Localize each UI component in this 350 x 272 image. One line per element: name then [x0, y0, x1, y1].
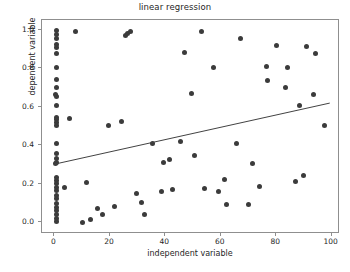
x-tick-label: 60 [215, 237, 225, 246]
x-tick-mark [53, 233, 54, 236]
y-tick-mark [38, 183, 41, 184]
x-tick-label: 20 [104, 237, 114, 246]
y-tick-mark [38, 29, 41, 30]
x-tick-mark [331, 233, 332, 236]
y-tick-label: 0.2 [22, 178, 34, 187]
y-tick-label: 0.0 [22, 217, 34, 226]
x-axis-label: independent variable [41, 249, 339, 258]
x-tick-label: 80 [270, 237, 280, 246]
x-tick-mark [220, 233, 221, 236]
x-tick-mark [164, 233, 165, 236]
x-tick-label: 40 [160, 237, 170, 246]
linear-regression-figure: linear regression 0204060801000.00.20.40… [0, 0, 350, 272]
y-tick-mark [38, 221, 41, 222]
y-axis-label: dependent variable [28, 0, 37, 132]
regression-line [54, 103, 329, 164]
y-tick-mark [38, 144, 41, 145]
plot-area [41, 19, 339, 233]
y-tick-mark [38, 67, 41, 68]
x-tick-label: 0 [51, 237, 56, 246]
x-tick-mark [275, 233, 276, 236]
x-tick-label: 100 [324, 237, 338, 246]
page-title: linear regression [0, 2, 350, 12]
y-tick-mark [38, 106, 41, 107]
regression-line-layer [42, 20, 338, 232]
y-tick-label: 0.4 [22, 140, 34, 149]
x-tick-mark [109, 233, 110, 236]
